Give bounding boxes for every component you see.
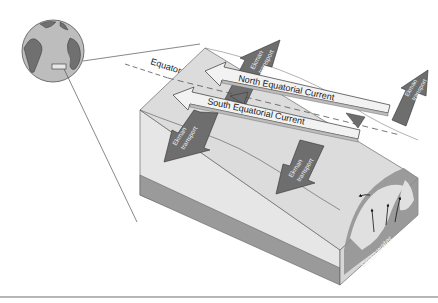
region-box [52, 64, 66, 69]
globe [22, 20, 84, 82]
ocean-currents-diagram: Equator Deep water Ekman transpo [0, 0, 438, 303]
projection-line-bottom [64, 69, 137, 222]
projection-line-top [83, 44, 200, 61]
ekman-arrow-tip [346, 113, 365, 128]
equator-label: Equator [149, 56, 182, 75]
ekman-arrow-north-right: Ekman transport [392, 70, 428, 126]
